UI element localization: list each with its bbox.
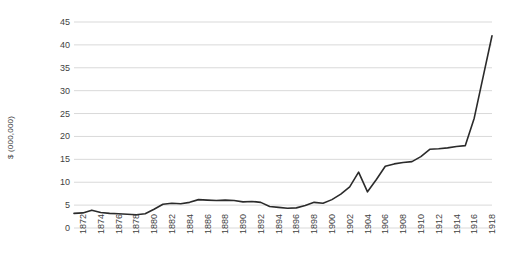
line-chart: $ (000,000) 051015202530354045 187218741… [0, 0, 516, 275]
data-series-line [74, 36, 492, 215]
plot-area [0, 0, 516, 275]
gridlines [74, 22, 492, 228]
